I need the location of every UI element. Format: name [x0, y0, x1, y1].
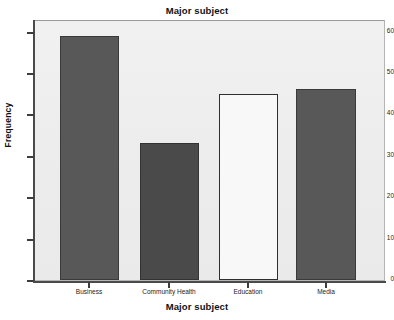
chart-title: Major subject — [0, 5, 394, 16]
y-axis-line — [33, 20, 35, 282]
y-tick-60 — [27, 32, 34, 34]
y-tick-40 — [27, 114, 34, 116]
y-tick-label-40: 40 — [370, 110, 394, 117]
y-tick-label-20: 20 — [370, 193, 394, 200]
x-tick-label-media: Media — [271, 289, 381, 296]
y-tick-label-50: 50 — [370, 69, 394, 76]
y-tick-label-30: 30 — [370, 152, 394, 159]
x-axis-line — [33, 281, 386, 283]
y-tick-30 — [27, 156, 34, 158]
bar-business[interactable] — [60, 36, 119, 280]
y-tick-label-10: 10 — [370, 235, 394, 242]
y-axis-title: Frequency — [3, 95, 13, 155]
bar-community-health[interactable] — [140, 143, 199, 280]
plot-area — [33, 20, 385, 281]
bar-media[interactable] — [296, 89, 356, 280]
y-tick-label-60: 60 — [370, 28, 394, 35]
y-tick-20 — [27, 197, 34, 199]
bar-chart-figure: Major subject Frequency 60 50 40 30 20 1… — [0, 0, 394, 320]
bar-education[interactable] — [219, 94, 278, 280]
x-axis-title: Major subject — [0, 301, 394, 312]
y-tick-10 — [27, 239, 34, 241]
y-tick-50 — [27, 73, 34, 75]
